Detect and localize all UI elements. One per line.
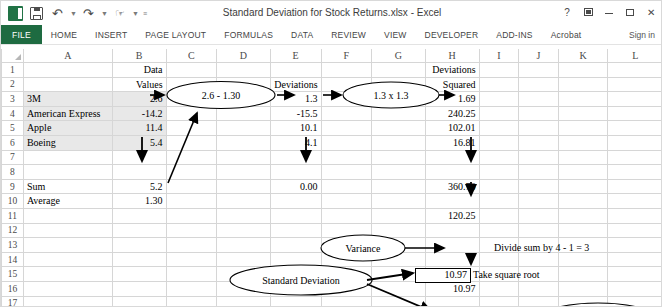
cell-J7[interactable] [519, 150, 559, 165]
cell-G13[interactable] [372, 238, 426, 253]
tab-file[interactable]: FILE [1, 25, 42, 44]
cell-K2[interactable] [558, 77, 608, 92]
cell-I14[interactable] [479, 252, 519, 267]
row-header-9[interactable]: 9 [2, 179, 24, 194]
cell-A2[interactable] [23, 77, 112, 92]
touch-mouse-mode-icon[interactable]: ☞ [111, 5, 128, 22]
cell-B13[interactable] [112, 238, 166, 253]
cell-G14[interactable] [372, 252, 426, 267]
column-header-b[interactable]: B [112, 49, 166, 63]
cell-C13[interactable] [166, 238, 217, 253]
tab-insert[interactable]: INSERT [86, 25, 136, 44]
cell-I9[interactable] [479, 179, 519, 194]
cell-C3[interactable] [166, 92, 217, 107]
cell-E13[interactable] [270, 238, 321, 253]
cell-E12[interactable] [270, 223, 321, 238]
cell-K14[interactable] [558, 252, 608, 267]
cell-B12[interactable] [112, 223, 166, 238]
cell-G4[interactable] [372, 106, 426, 121]
cell-I17[interactable] [479, 296, 519, 307]
cell-J14[interactable] [519, 252, 559, 267]
tab-add-ins[interactable]: ADD-INS [487, 25, 541, 44]
grid-body[interactable]: 1 Data Deviations 2 [2, 63, 662, 307]
table-row[interactable]: 13 [2, 238, 662, 253]
tab-data[interactable]: DATA [282, 25, 322, 44]
row-header-8[interactable]: 8 [2, 165, 24, 180]
cell-D17[interactable] [217, 296, 271, 307]
cell-D1[interactable] [217, 63, 271, 78]
cell-K1[interactable] [558, 63, 608, 78]
cell-L14[interactable] [608, 252, 662, 267]
cell-J1[interactable] [519, 63, 559, 78]
cell-C11[interactable] [166, 208, 217, 223]
cell-B6[interactable]: 5.4 [112, 135, 166, 150]
cell-H13[interactable] [425, 238, 479, 253]
column-header-f[interactable]: F [321, 49, 372, 63]
cell-B8[interactable] [112, 165, 166, 180]
cell-D2[interactable] [217, 77, 271, 92]
cell-F10[interactable] [321, 194, 372, 209]
cell-J15[interactable] [519, 267, 559, 282]
cell-F3[interactable] [321, 92, 372, 107]
cell-F16[interactable] [321, 281, 372, 296]
cell-G9[interactable] [372, 179, 426, 194]
cell-H15[interactable] [425, 267, 479, 282]
cell-E4[interactable]: -15.5 [270, 106, 321, 121]
cell-H8[interactable] [425, 165, 479, 180]
cell-A12[interactable] [23, 223, 112, 238]
cell-I12[interactable] [479, 223, 519, 238]
cell-I13[interactable] [479, 238, 519, 253]
cell-A14[interactable] [23, 252, 112, 267]
cell-K3[interactable] [558, 92, 608, 107]
cell-L10[interactable] [608, 194, 662, 209]
table-row[interactable]: 7 [2, 150, 662, 165]
table-row[interactable]: 14 [2, 252, 662, 267]
cell-F15[interactable] [321, 267, 372, 282]
cell-H6[interactable]: 16.81 [425, 135, 479, 150]
cell-G16[interactable] [372, 281, 426, 296]
restore-icon[interactable] [624, 8, 636, 18]
cell-B2[interactable]: Values [112, 77, 166, 92]
table-row[interactable]: 1 Data Deviations [2, 63, 662, 78]
cell-F13[interactable] [321, 238, 372, 253]
cell-B5[interactable]: 11.4 [112, 121, 166, 136]
cell-I3[interactable] [479, 92, 519, 107]
cell-C5[interactable] [166, 121, 217, 136]
cell-A8[interactable] [23, 165, 112, 180]
cell-C10[interactable] [166, 194, 217, 209]
cell-L17[interactable] [608, 296, 662, 307]
table-row[interactable]: 15 [2, 267, 662, 282]
cell-L13[interactable] [608, 238, 662, 253]
cell-I16[interactable] [479, 281, 519, 296]
cell-K10[interactable] [558, 194, 608, 209]
cell-J16[interactable] [519, 281, 559, 296]
tab-view[interactable]: VIEW [375, 25, 416, 44]
cell-C14[interactable] [166, 252, 217, 267]
cell-B17[interactable] [112, 296, 166, 307]
table-row[interactable]: 5 Apple 11.4 10.1 102.01 [2, 121, 662, 136]
row-header-11[interactable]: 11 [2, 208, 24, 223]
undo-dropdown-icon[interactable]: ▼ [70, 10, 76, 17]
cell-D7[interactable] [217, 150, 271, 165]
cell-H7[interactable] [425, 150, 479, 165]
row-header-16[interactable]: 16 [2, 281, 24, 296]
cell-E11[interactable] [270, 208, 321, 223]
tab-developer[interactable]: DEVELOPER [416, 25, 488, 44]
cell-F4[interactable] [321, 106, 372, 121]
column-header-row[interactable]: A B C D E F G H I J K L [2, 49, 662, 63]
cell-E6[interactable]: 4.1 [270, 135, 321, 150]
cell-L4[interactable] [608, 106, 662, 121]
select-all-corner[interactable] [2, 49, 24, 63]
cell-L15[interactable] [608, 267, 662, 282]
cell-G17[interactable] [372, 296, 426, 307]
row-header-12[interactable]: 12 [2, 223, 24, 238]
column-header-l[interactable]: L [608, 49, 662, 63]
cell-G11[interactable] [372, 208, 426, 223]
cell-C15[interactable] [166, 267, 217, 282]
ribbon-tabs[interactable]: FILE HOME INSERT PAGE LAYOUT FORMULAS DA… [1, 25, 662, 44]
cell-B14[interactable] [112, 252, 166, 267]
cell-L6[interactable] [608, 135, 662, 150]
cell-A5[interactable]: Apple [23, 121, 112, 136]
cell-L2[interactable] [608, 77, 662, 92]
cell-A10[interactable]: Average [23, 194, 112, 209]
